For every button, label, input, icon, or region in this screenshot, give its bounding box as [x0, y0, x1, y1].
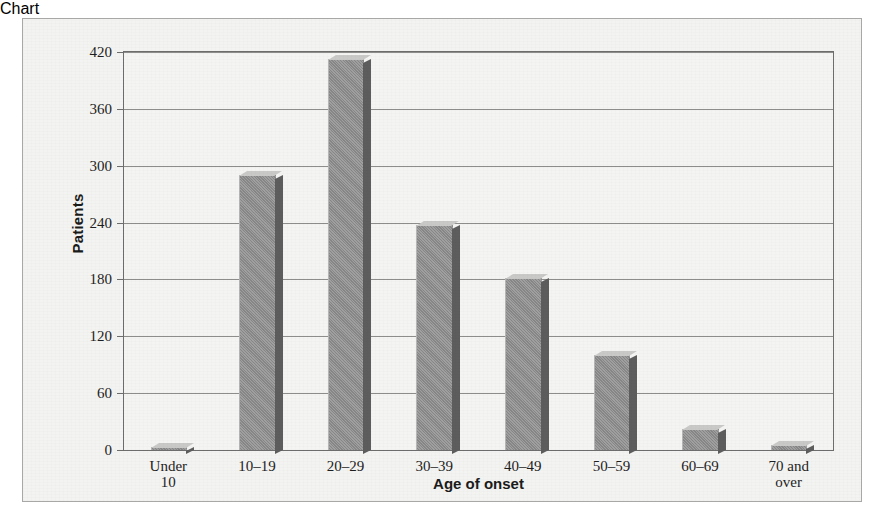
bar-top-face — [416, 221, 459, 226]
x-axis-tick-label: 60–69 — [681, 458, 719, 474]
bar-side-face — [806, 445, 814, 454]
bar-side-face — [452, 226, 460, 454]
y-axis-tick-mark — [117, 279, 124, 280]
bar-face — [594, 355, 630, 450]
bar-group[interactable]: 30–39 — [390, 52, 479, 450]
y-axis-tick-label: 60 — [97, 385, 112, 402]
y-axis-tick-mark — [117, 223, 124, 224]
bar[interactable] — [594, 355, 629, 450]
bar-group[interactable]: Under 10 — [124, 52, 213, 450]
x-axis-tick-label: 50–59 — [593, 458, 631, 474]
bar-face — [416, 225, 452, 450]
x-axis-tick-label: 40–49 — [504, 458, 542, 474]
y-axis-tick-label: 420 — [90, 44, 113, 61]
bar[interactable] — [771, 445, 806, 450]
bar-face — [682, 429, 718, 450]
bar[interactable] — [416, 225, 451, 450]
bar[interactable] — [328, 59, 363, 450]
bar[interactable] — [682, 429, 717, 450]
bar-top-face — [682, 425, 725, 430]
y-axis-tick-label: 360 — [90, 100, 113, 117]
y-axis-title: Patients — [69, 164, 86, 284]
bar-side-face — [363, 59, 371, 454]
y-axis-tick-label: 120 — [90, 328, 113, 345]
bar-group[interactable]: 70 and over — [744, 52, 833, 450]
bar[interactable] — [239, 175, 274, 450]
x-axis-tick-label: 10–19 — [238, 458, 276, 474]
bar-top-face — [151, 443, 194, 448]
bar-group[interactable]: 10–19 — [213, 52, 302, 450]
y-axis-tick-mark — [117, 52, 124, 53]
x-axis-tick-label: 30–39 — [415, 458, 453, 474]
bar-side-face — [186, 447, 194, 454]
y-axis-tick-mark — [117, 393, 124, 394]
y-axis-tick-mark — [117, 109, 124, 110]
y-axis-tick-mark — [117, 166, 124, 167]
plot-area: 060120180240300360420 Under 1010–1920–29… — [123, 51, 834, 451]
bar[interactable] — [151, 447, 186, 450]
bar-group[interactable]: 40–49 — [479, 52, 568, 450]
y-axis-tick-mark — [117, 450, 124, 451]
bar-side-face — [718, 429, 726, 454]
y-axis-tick-mark — [117, 336, 124, 337]
bar-top-face — [328, 55, 371, 60]
y-axis-tick-label: 240 — [90, 214, 113, 231]
x-axis-title: Age of onset — [123, 475, 834, 492]
bar-face — [328, 59, 364, 450]
bar-group[interactable]: 60–69 — [656, 52, 745, 450]
bar-side-face — [541, 278, 549, 454]
y-axis-tick-label: 180 — [90, 271, 113, 288]
bar-top-face — [505, 274, 548, 279]
bar-side-face — [275, 175, 283, 454]
bar[interactable] — [505, 278, 540, 450]
bar-side-face — [629, 355, 637, 454]
x-axis-tick-label: 20–29 — [327, 458, 365, 474]
bar-top-face — [594, 351, 637, 356]
bar-group[interactable]: 20–29 — [301, 52, 390, 450]
bar-face — [239, 175, 275, 450]
y-axis-tick-label: 300 — [90, 157, 113, 174]
bar-top-face — [239, 171, 282, 176]
y-axis-tick-label: 0 — [105, 442, 113, 459]
bar-face — [505, 278, 541, 450]
bar-top-face — [771, 441, 814, 446]
bar-group[interactable]: 50–59 — [567, 52, 656, 450]
figure-panel: Patients 060120180240300360420 Under 101… — [22, 18, 862, 502]
